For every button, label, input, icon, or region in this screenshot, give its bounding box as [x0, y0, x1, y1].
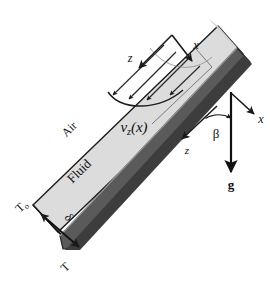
label-z-axis-top: z [127, 51, 133, 65]
label-temperature-surface: To [12, 197, 31, 216]
label-x-axis-right: x [257, 112, 264, 126]
plate-face [60, 48, 250, 249]
diagram-canvas: z x x z g β δ Air Fluid [0, 0, 270, 282]
inclined-plate [60, 48, 252, 250]
label-velocity-profile: vz(x) [120, 119, 147, 137]
arrow-x-axis-right [231, 93, 254, 114]
label-velocity-arg: (x) [131, 119, 148, 136]
label-temperature-wall: T [58, 259, 73, 275]
falling-film-diagram: z x x z g β δ Air Fluid [0, 0, 270, 282]
label-gravity: g [228, 177, 235, 192]
arrow-x-axis-top [172, 35, 192, 61]
label-x-axis-top: x [192, 38, 199, 52]
plate-highlight [60, 48, 237, 236]
label-beta: β [213, 126, 220, 141]
label-z-axis-right: z [184, 144, 190, 156]
label-air: Air [59, 119, 80, 140]
velocity-label-group: vz(x) [120, 119, 147, 137]
arc-inclination-angle [206, 115, 232, 119]
